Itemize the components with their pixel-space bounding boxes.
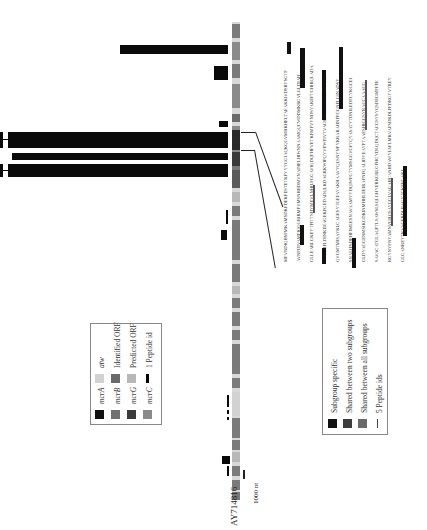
gene-segment (232, 192, 240, 202)
legend-label-mcrA: mcrA (97, 388, 106, 404)
peptide-highlight (300, 225, 304, 245)
mcrA-swatch (95, 410, 104, 419)
legend-label-shared-all: Shared between all subgroups (360, 323, 369, 413)
legend-label-peptide-count: 5 Peptide ids (375, 374, 384, 413)
peptide-highlight (313, 185, 315, 213)
legend-label-mcrC: mcrC (145, 387, 154, 404)
peptide-highlight (352, 238, 356, 268)
peptide-bar (226, 210, 228, 224)
mcrG-swatch (127, 410, 136, 419)
peptide-bar (227, 466, 229, 476)
gene-segment (232, 84, 240, 108)
mcrA-segment (232, 130, 240, 150)
scale-label: 1000 nt (252, 483, 260, 504)
peptide-highlight (322, 248, 326, 264)
peptide-highlight (300, 48, 305, 88)
peptide-highlight (322, 70, 326, 120)
peptide-bar (221, 230, 227, 240)
sequence-line: SNALIPSDEHPIMLESNAVAAMYYDQIWFGTYMSGGVGFT… (348, 78, 353, 262)
mcrB-swatch (111, 410, 120, 419)
peptide-highlight (365, 80, 367, 130)
gene-segment (232, 344, 240, 374)
peptide-highlight (391, 178, 393, 226)
mcrG-segment (232, 152, 240, 166)
peptide-legend: Subgroup specific Shared between two sub… (322, 308, 388, 435)
identified-orf-swatch (111, 374, 120, 383)
gene-segment (232, 312, 240, 326)
legend-label-mcrG: mcrG (129, 387, 138, 404)
legend-label-identified-orf: Identified ORF (113, 322, 122, 368)
peptide-bar (8, 132, 228, 148)
legend-label-peptide: 1 Peptide id (145, 332, 154, 368)
gene-segment (232, 206, 240, 216)
legend-label-predicted-orf: Predicted ORF (129, 323, 138, 368)
gene-segment (232, 466, 240, 476)
peptide-highlight (339, 47, 343, 109)
mcrC-swatch (143, 410, 152, 419)
sequence-line: MPVNDIQHSFMKAMSDKFDEKPESTETKFYYYGGIAQKQG… (283, 70, 288, 262)
zoom-connector-line (241, 150, 255, 151)
mcrB-segment (232, 170, 240, 188)
peptide-bar-tick (0, 164, 3, 177)
genome-track (232, 22, 240, 500)
peptide-bar (222, 456, 230, 464)
zoom-connector-line (255, 132, 283, 208)
peptide-bar (120, 45, 228, 54)
peptide-bar (214, 66, 228, 80)
legend-label-atw: atw (97, 357, 106, 368)
peptide-highlight (403, 166, 407, 236)
zoom-connector-line (254, 150, 276, 268)
atw-segment (232, 392, 240, 416)
gene-segment (232, 418, 240, 438)
peptide-bar (227, 410, 229, 414)
gene-segment (232, 440, 240, 450)
gene-segment (232, 298, 240, 308)
peptide-swatch (146, 374, 149, 383)
gene-segment (232, 114, 240, 122)
gene-legend: mcrA mcrB mcrG mcrC atw Identified ORF P… (90, 323, 162, 425)
accession-label: AY714816 (229, 487, 239, 526)
peptide-bar (12, 153, 228, 160)
scale-bar (243, 470, 245, 479)
predicted-orf-swatch (127, 374, 136, 383)
gene-segment (232, 264, 240, 282)
gene-segment (232, 42, 240, 60)
gene-segment (232, 220, 240, 260)
legend-label-mcrB: mcrB (113, 388, 122, 404)
peptide-bar-tick (0, 132, 3, 148)
sequence-line: SAVACATGLAQPTLSAWSLSQLGHYERKGRLGFHGYDLQD… (374, 80, 379, 262)
shared-two-swatch (343, 419, 352, 428)
legend-label-shared-two: Shared between two subgroups (345, 319, 354, 413)
sequence-line: RGYNYPNYAMNVGHQSAYGGLVAGAHCANHDAWYLSPLMK… (387, 77, 392, 262)
legend-label-subgroup-specific: Subgroup specific (330, 359, 339, 413)
shared-all-swatch (358, 419, 367, 428)
gene-segment (232, 452, 240, 462)
peptide-bar (227, 395, 229, 407)
zoom-connector-line (241, 132, 255, 133)
peptide-bar (219, 121, 228, 127)
gene-segment (232, 24, 240, 38)
peptide-count-swatch (377, 419, 378, 428)
sequence-line: GLLEARLGKEYTPITTSHYMEVLNHILPGGAVIQDQFHFV… (309, 65, 314, 262)
gene-segment (232, 330, 240, 340)
peptide-bar (227, 417, 229, 420)
peptide-highlight (287, 42, 291, 54)
gene-segment (232, 286, 240, 294)
peptide-bar (8, 164, 228, 177)
subgroup-specific-swatch (328, 419, 337, 428)
atw-swatch (95, 374, 104, 383)
gene-segment (232, 64, 240, 78)
gene-segment (232, 378, 240, 388)
